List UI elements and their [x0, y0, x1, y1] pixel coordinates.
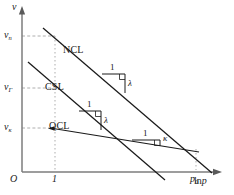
x-tick-one: 1	[52, 174, 57, 184]
compression-plane-figure: v lnp O vn vΓ vκ 1 p0 NCL CSL QCL 1 λ 1 …	[0, 0, 234, 195]
y-tick-vgamma-sub: Γ	[8, 86, 12, 93]
axes-group	[22, 12, 216, 172]
y-tick-vkappa-sub: κ	[8, 126, 11, 133]
ncl-slope-triangle	[102, 74, 125, 93]
curve-label-qcl: QCL	[49, 121, 70, 131]
y-axis-arrowhead	[19, 6, 25, 15]
reference-lines	[22, 36, 196, 170]
ncl-slope-rise-label: 1	[110, 63, 115, 72]
curve-label-ncl: NCL	[63, 45, 84, 55]
y-axis-label: v	[12, 2, 16, 12]
x-tick-p0: p0	[190, 174, 198, 184]
x-tick-p0-sub: 0	[195, 178, 198, 185]
ncl-slope-run-label: λ	[128, 79, 132, 88]
qcl-slope-run-label: κ	[163, 134, 167, 143]
y-tick-vkappa: vκ	[4, 122, 12, 132]
figure-canvas	[0, 0, 234, 195]
curve-label-csl: CSL	[45, 82, 64, 92]
y-tick-vn: vn	[4, 30, 12, 40]
x-axis-label-p: p	[202, 175, 207, 186]
y-tick-vn-sub: n	[8, 34, 11, 41]
qcl-slope-rise-label: 1	[143, 129, 148, 138]
csl-slope-triangle	[79, 111, 101, 130]
x-axis-arrowhead	[213, 169, 222, 175]
origin-label: O	[10, 174, 17, 184]
csl-slope-run-label: λ	[104, 116, 108, 125]
qcl-line	[50, 128, 199, 152]
y-tick-vgamma: vΓ	[4, 82, 12, 92]
csl-slope-rise-label: 1	[87, 100, 92, 109]
